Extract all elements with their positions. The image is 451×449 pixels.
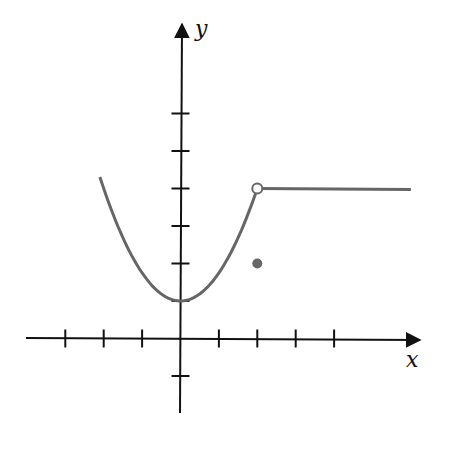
y-axis-label: y — [194, 16, 208, 41]
open-circle-marker — [252, 184, 262, 194]
piecewise-function-graph: y x — [0, 0, 451, 449]
filled-circle-marker — [252, 259, 262, 269]
tick-marks — [65, 114, 334, 377]
axes — [26, 24, 420, 413]
parabola-curve — [100, 177, 257, 301]
constant-line — [257, 189, 411, 190]
function-curves — [100, 177, 411, 301]
x-axis-label: x — [406, 347, 419, 372]
y-axis — [180, 24, 182, 413]
x-axis — [26, 338, 420, 340]
